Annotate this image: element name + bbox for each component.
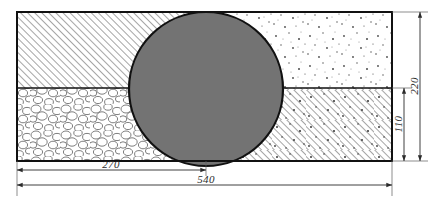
- dim-270-label: 270: [102, 158, 120, 170]
- dim-220-label: 220: [408, 77, 420, 95]
- drawing-canvas: 270 540 110 220: [0, 0, 436, 206]
- pipe-circle: [129, 12, 283, 166]
- dim-540-label: 540: [197, 173, 215, 185]
- dim-110-label: 110: [392, 115, 404, 132]
- technical-drawing: 270 540 110 220: [0, 0, 436, 206]
